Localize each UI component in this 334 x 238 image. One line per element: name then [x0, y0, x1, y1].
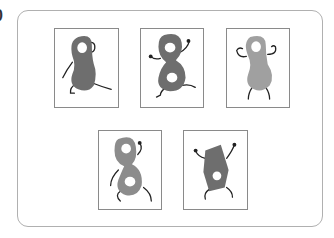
figure-eight-icon [99, 131, 161, 209]
option-card-4[interactable] [98, 130, 162, 210]
option-card-3[interactable] [226, 28, 290, 108]
figure-eight-icon [141, 29, 203, 107]
option-card-1[interactable] [54, 28, 119, 108]
peanut-figure-icon [55, 29, 118, 107]
option-card-5[interactable] [183, 130, 248, 210]
question-number: 0 [0, 8, 3, 24]
peanut-figure-icon [227, 29, 289, 107]
polygon-figure-icon [184, 131, 247, 209]
option-card-2[interactable] [140, 28, 204, 108]
